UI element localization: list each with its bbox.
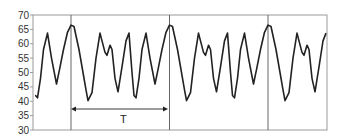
- line-chart: 303540455055606570 T: [0, 0, 342, 139]
- y-tick-label: 60: [18, 38, 30, 49]
- y-axis-labels: 303540455055606570: [18, 10, 30, 136]
- signal-line: [35, 25, 326, 101]
- y-tick-label: 35: [18, 110, 30, 121]
- period-arrow: [71, 107, 168, 112]
- arrowhead-left-icon: [71, 107, 76, 112]
- y-tick-label: 45: [18, 81, 30, 92]
- period-label: T: [120, 113, 127, 125]
- y-tick-label: 30: [18, 125, 30, 136]
- plot-area-frame: [33, 15, 327, 130]
- y-tick-label: 65: [18, 24, 30, 35]
- y-tick-label: 40: [18, 96, 30, 107]
- y-tick-label: 70: [18, 10, 30, 21]
- arrowhead-right-icon: [163, 107, 168, 112]
- y-tick-label: 50: [18, 67, 30, 78]
- y-tick-label: 55: [18, 53, 30, 64]
